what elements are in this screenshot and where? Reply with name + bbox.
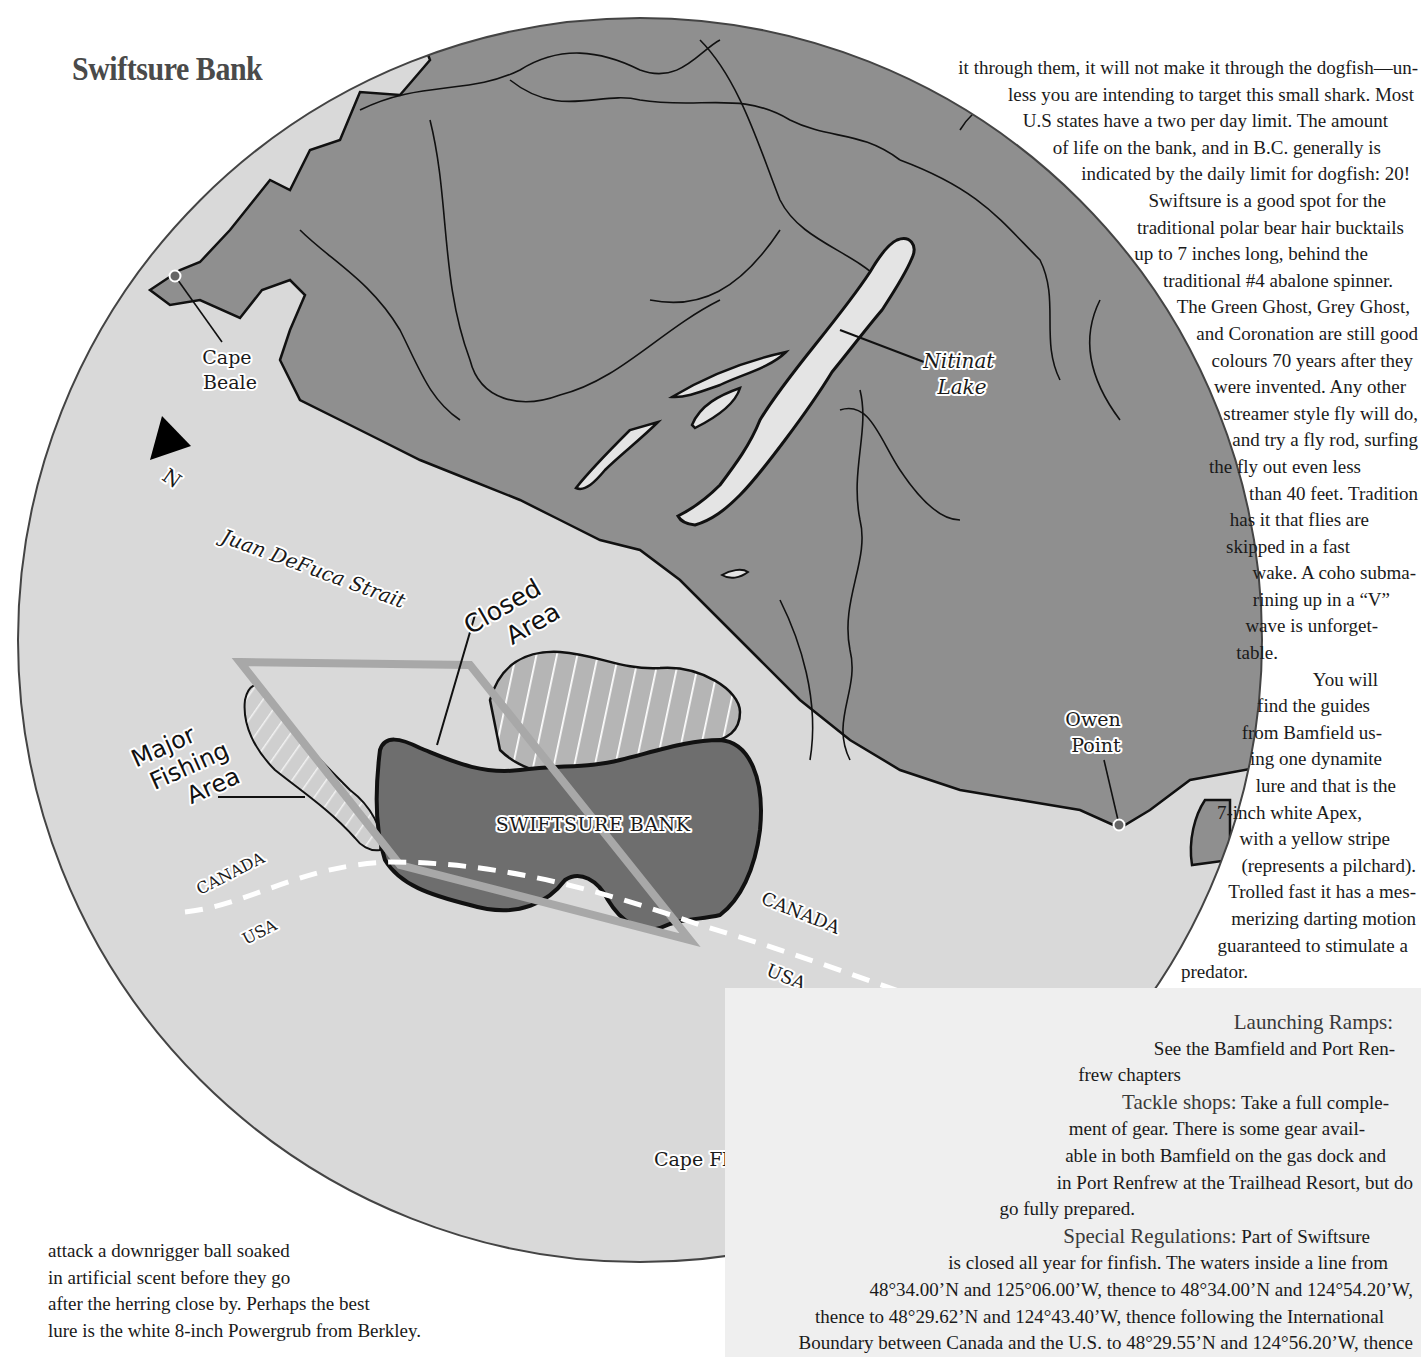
special-regulations-heading: Special Regulations: xyxy=(1063,1224,1236,1248)
cape-beale-label: Cape xyxy=(202,346,251,368)
cape-beale-marker[interactable] xyxy=(170,271,181,282)
bottom-left-text: attack a downrigger ball soaked in artif… xyxy=(48,1238,548,1344)
launching-ramps-heading: Launching Ramps: xyxy=(713,1009,1393,1036)
swiftsure-bank-label: SWIFTSURE BANK xyxy=(496,813,691,835)
page-title: Swiftsure Bank xyxy=(72,50,262,88)
right-text-column: it through them, it will not make it thr… xyxy=(898,55,1418,986)
info-sidebar: Launching Ramps: See the Bamfield and Po… xyxy=(713,1009,1413,1357)
tackle-shops-heading: Tackle shops: xyxy=(1122,1090,1237,1114)
